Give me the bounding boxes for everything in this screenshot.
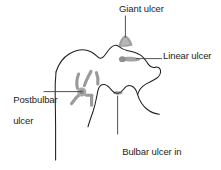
label-bulbar-ulcer-line1: Bulbar ulcer in xyxy=(122,146,181,157)
descending-limb-right xyxy=(138,95,160,115)
linear-ulcer-head xyxy=(119,56,126,62)
ulcer-diagram-figure: Giant ulcer Linear ulcer Postbulbar ulce… xyxy=(0,0,221,169)
ulcer-markings xyxy=(72,36,141,106)
label-postbulbar-ulcer: Postbulbar ulcer xyxy=(3,84,58,137)
leader-lines xyxy=(44,16,162,134)
label-postbulbar-ulcer-line2: ulcer xyxy=(13,115,33,126)
lateral-wall-right xyxy=(138,67,161,95)
label-giant-ulcer: Giant ulcer xyxy=(119,4,164,15)
label-bulbar-ulcer-in-profile: Bulbar ulcer in profile xyxy=(112,136,181,169)
label-linear-ulcer: Linear ulcer xyxy=(163,51,211,62)
label-bulbar-ulcer-line2: profile xyxy=(122,167,147,170)
label-postbulbar-ulcer-line1: Postbulbar xyxy=(13,94,57,105)
postbulbar-ulcer-folds xyxy=(72,71,98,105)
